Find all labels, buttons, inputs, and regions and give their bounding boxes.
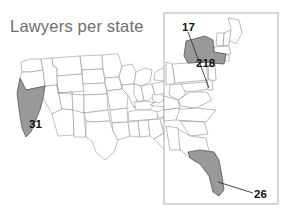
inset-eastern-us [0, 0, 291, 216]
value-label-delaware: 17 [182, 21, 195, 33]
value-label-new-york: 218 [196, 57, 215, 69]
value-label-florida: 26 [254, 188, 267, 200]
lawyers-per-state-map-figure: Lawyers per state [0, 0, 291, 216]
inset-state-vermont [216, 33, 224, 46]
